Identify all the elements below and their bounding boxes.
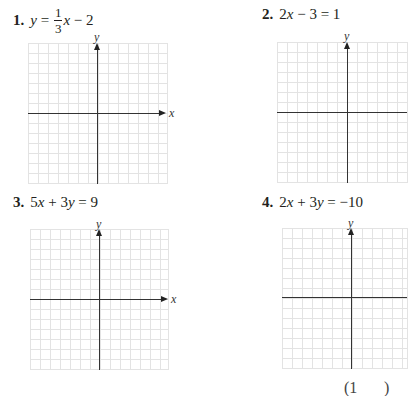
- y-axis-label: y: [94, 31, 99, 43]
- x-axis-arrow-icon: [159, 110, 166, 116]
- problem-4-title: 4.2x + 3y = −10: [262, 195, 363, 210]
- problem-2-title: 2.2x − 3 = 1: [262, 7, 340, 22]
- problem-number: 4.: [262, 194, 273, 210]
- x-axis: [282, 297, 407, 298]
- problem-3-title: 3.5x + 3y = 9: [13, 195, 98, 210]
- problem-number: 2.: [262, 6, 273, 22]
- equation-rest: − 3 = 1: [293, 6, 340, 22]
- x-axis: [277, 112, 407, 113]
- problem-number: 1.: [13, 12, 24, 28]
- var-y: y: [30, 12, 37, 28]
- y-axis: [351, 233, 352, 369]
- rhs: = −10: [324, 194, 363, 210]
- x-axis: [30, 299, 162, 300]
- equation: 2x − 3 = 1: [279, 6, 340, 22]
- x-axis-label: x: [171, 293, 176, 305]
- rhs: = 9: [75, 194, 98, 210]
- problem-number: 3.: [13, 194, 24, 210]
- x-axis: [28, 113, 161, 114]
- coefficient: 5: [30, 194, 38, 210]
- y-axis: [97, 48, 98, 184]
- denominator: 3: [54, 21, 63, 35]
- partial-cropped-text-right: ): [384, 380, 389, 396]
- y-axis-label: y: [96, 218, 101, 230]
- coefficient: 2: [279, 6, 287, 22]
- operator-term: + 3: [293, 194, 316, 210]
- y-axis: [99, 234, 100, 370]
- coefficient: 2: [279, 194, 287, 210]
- constant-term: − 2: [70, 12, 93, 28]
- partial-cropped-text-left: (1: [344, 380, 357, 396]
- var-y: y: [317, 194, 324, 210]
- numerator: 1: [54, 6, 63, 21]
- fraction: 13: [54, 6, 63, 35]
- equation: 2x + 3y = −10: [279, 194, 363, 210]
- y-axis: [347, 47, 348, 183]
- grid-lines: [282, 228, 408, 369]
- y-axis-label: y: [344, 30, 349, 42]
- y-axis-label: y: [348, 217, 353, 229]
- equation: y = 13x − 2: [30, 12, 93, 28]
- equation: 5x + 3y = 9: [30, 194, 98, 210]
- y-axis-arrow-icon: [344, 42, 350, 49]
- operator-term: + 3: [44, 194, 67, 210]
- x-axis-arrow-icon: [161, 296, 168, 302]
- var-y: y: [68, 194, 75, 210]
- problem-1-title: 1.y = 13x − 2: [13, 7, 94, 36]
- x-axis-label: x: [169, 107, 174, 119]
- equals: =: [37, 12, 53, 28]
- y-axis-arrow-icon: [94, 43, 100, 50]
